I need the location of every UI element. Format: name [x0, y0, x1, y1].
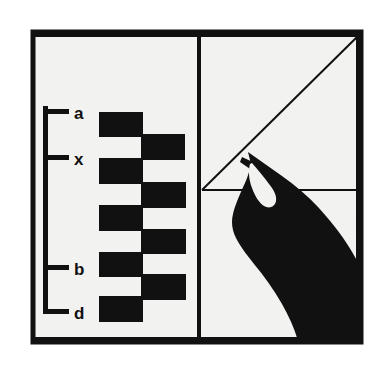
panel-divider-overlay: [197, 34, 201, 340]
bar-9: [99, 296, 143, 322]
frame-bottom-edge: [33, 337, 361, 342]
axis-label-x: x: [74, 150, 84, 169]
tick-mark-d: [43, 309, 69, 314]
bar-7: [99, 252, 143, 277]
axis-spine: [43, 106, 48, 314]
bar-1: [99, 112, 143, 137]
bar-5: [99, 205, 143, 231]
tick-mark-b: [43, 265, 69, 270]
figure-canvas: a x b d: [0, 0, 375, 375]
bar-8: [141, 274, 186, 300]
axis-label-b: b: [74, 260, 84, 279]
tick-mark-x: [43, 155, 69, 160]
tick-mark-a: [43, 109, 69, 114]
bar-3: [99, 158, 143, 184]
bar-4: [141, 182, 186, 208]
bar-6: [141, 229, 186, 254]
frame-top-edge: [33, 32, 361, 37]
bar-2: [141, 134, 185, 160]
axis-label-d: d: [74, 304, 84, 323]
figure-root: a x b d: [0, 0, 375, 375]
frame-right-edge: [356, 34, 361, 340]
axis-label-a: a: [74, 104, 84, 123]
